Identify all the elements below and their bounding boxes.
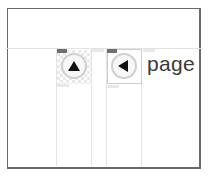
content-clip: page 1 xyxy=(7,8,201,169)
page-indicator: page 1 xyxy=(147,52,201,76)
